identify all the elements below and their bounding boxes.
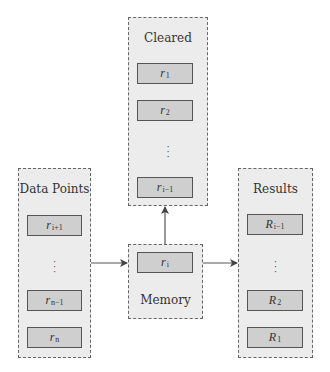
arrows-layer <box>0 0 330 372</box>
